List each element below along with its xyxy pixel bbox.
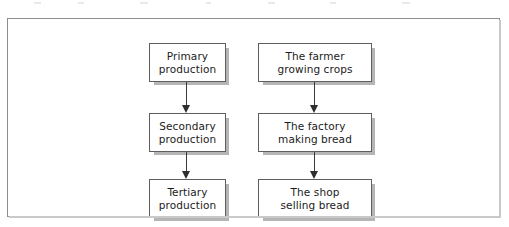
- flow-node-secondary-line1: Secondary: [159, 120, 216, 133]
- flow-node-tertiary-line1: Tertiary: [159, 186, 216, 199]
- flow-node-factory-line1: The factory: [278, 120, 352, 133]
- flow-node-primary-line1: Primary: [159, 50, 216, 63]
- flow-node-shop: The shop selling bread: [258, 179, 372, 218]
- flow-node-secondary: Secondary production: [149, 113, 226, 152]
- flow-node-tertiary: Tertiary production: [149, 179, 226, 218]
- flow-node-farmer-line1: The farmer: [277, 50, 352, 63]
- flow-node-farmer-line2: growing crops: [277, 63, 352, 76]
- arrow-primary-to-secondary-icon: [182, 82, 191, 113]
- flow-node-farmer: The farmer growing crops: [258, 43, 372, 82]
- flow-node-factory: The factory making bread: [258, 113, 372, 152]
- flow-node-secondary-line2: production: [159, 133, 216, 146]
- arrow-secondary-to-tertiary-icon: [182, 152, 191, 179]
- arrow-farmer-to-factory-icon: [310, 82, 319, 113]
- flow-node-factory-line2: making bread: [278, 133, 352, 146]
- scan-artifact-strip: [0, 0, 509, 7]
- figure-screenshot: Primary production Secondary production …: [0, 0, 509, 227]
- flow-node-shop-line2: selling bread: [281, 199, 350, 212]
- flow-node-primary: Primary production: [149, 43, 226, 82]
- flow-node-tertiary-line2: production: [159, 199, 216, 212]
- arrow-factory-to-shop-icon: [310, 152, 319, 179]
- figure-frame: Primary production Secondary production …: [7, 18, 500, 217]
- flow-node-primary-line2: production: [159, 63, 216, 76]
- flow-node-shop-line1: The shop: [281, 186, 350, 199]
